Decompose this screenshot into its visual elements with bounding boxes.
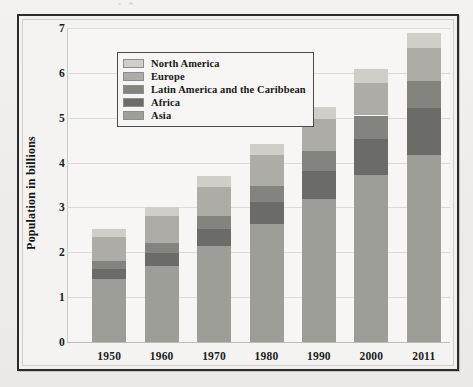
bar-segment-1990-asia[interactable] [302, 199, 336, 342]
y-axis-line [67, 28, 68, 342]
bar-segment-2000-europe[interactable] [354, 83, 388, 116]
bar-segment-1950-north-america[interactable] [92, 229, 126, 237]
y-axis-tick-labels: 01234567 [41, 28, 65, 342]
page-surface: Population in billions 01234567 19501960… [0, 0, 473, 387]
plot-area: 1950196019701980199020002011 North Ameri… [67, 28, 450, 342]
x-tick-label-1950: 1950 [92, 350, 126, 362]
bar-segment-2000-asia[interactable] [354, 175, 388, 342]
gridline-0 [67, 342, 450, 343]
bar-segment-1980-europe[interactable] [250, 155, 284, 186]
chart-figure-frame: Population in billions 01234567 19501960… [17, 14, 459, 371]
bar-segment-1960-africa[interactable] [145, 253, 179, 266]
y-tick-label-3: 3 [47, 201, 65, 213]
y-tick-label-0: 0 [47, 336, 65, 348]
legend-swatch-icon [123, 111, 144, 120]
bar-segment-2011-asia[interactable] [407, 155, 441, 343]
x-tick-label-1990: 1990 [302, 350, 336, 362]
bar-segment-1970-north-america[interactable] [197, 176, 231, 186]
bar-segment-1960-europe[interactable] [145, 216, 179, 243]
bar-segment-1970-europe[interactable] [197, 187, 231, 217]
bar-segment-2000-north-america[interactable] [354, 69, 388, 83]
x-tick-label-2000: 2000 [354, 350, 388, 362]
bar-segment-1970-asia[interactable] [197, 246, 231, 342]
legend-swatch-icon [123, 72, 144, 81]
legend-item-asia[interactable]: Asia [123, 109, 306, 122]
y-tick-label-5: 5 [47, 112, 65, 124]
bar-segment-1980-latin-america-and-the-caribbean[interactable] [250, 186, 284, 202]
y-axis-title: Population in billions [24, 136, 39, 250]
bar-segment-1960-north-america[interactable] [145, 207, 179, 216]
bar-segment-1990-africa[interactable] [302, 171, 336, 199]
y-tick-label-1: 1 [47, 291, 65, 303]
x-tick-label-1980: 1980 [250, 350, 284, 362]
scan-artifact [118, 3, 121, 5]
legend-label: North America [151, 58, 220, 69]
bar-segment-2000-latin-america-and-the-caribbean[interactable] [354, 116, 388, 139]
x-tick-label-1970: 1970 [197, 350, 231, 362]
bar-segment-1970-latin-america-and-the-caribbean[interactable] [197, 216, 231, 229]
bar-segment-1950-asia[interactable] [92, 279, 126, 342]
legend-swatch-icon [123, 85, 144, 94]
bar-segment-2000-africa[interactable] [354, 139, 388, 175]
legend-label: Africa [151, 97, 180, 108]
bar-segment-2011-europe[interactable] [407, 48, 441, 81]
legend-swatch-icon [123, 98, 144, 107]
bar-segment-1960-asia[interactable] [145, 266, 179, 342]
bar-segment-2011-latin-america-and-the-caribbean[interactable] [407, 81, 441, 108]
legend-item-africa[interactable]: Africa [123, 96, 306, 109]
x-tick-label-1960: 1960 [145, 350, 179, 362]
bar-segment-1950-europe[interactable] [92, 237, 126, 262]
bar-segment-1980-asia[interactable] [250, 224, 284, 342]
y-tick-label-6: 6 [47, 67, 65, 79]
legend-item-latin-america-and-the-caribbean[interactable]: Latin America and the Caribbean [123, 83, 306, 96]
legend-label: Latin America and the Caribbean [151, 84, 306, 95]
bar-segment-1980-africa[interactable] [250, 202, 284, 224]
legend-item-europe[interactable]: Europe [123, 70, 306, 83]
x-tick-label-2011: 2011 [407, 350, 441, 362]
legend-label: Asia [151, 110, 171, 121]
bar-segment-1990-latin-america-and-the-caribbean[interactable] [302, 151, 336, 171]
bar-segment-2011-north-america[interactable] [407, 33, 441, 49]
bar-segment-1970-africa[interactable] [197, 229, 231, 246]
chart-figure-inner: Population in billions 01234567 19501960… [22, 19, 454, 366]
bar-group-2011[interactable] [407, 28, 441, 342]
legend-swatch-icon [123, 59, 144, 68]
y-tick-label-4: 4 [47, 157, 65, 169]
chart-legend: North AmericaEuropeLatin America and the… [117, 52, 314, 127]
bar-segment-1950-latin-america-and-the-caribbean[interactable] [92, 261, 126, 269]
y-tick-label-7: 7 [47, 22, 65, 34]
legend-label: Europe [151, 71, 185, 82]
bar-segment-1960-latin-america-and-the-caribbean[interactable] [145, 243, 179, 253]
bar-group-2000[interactable] [354, 28, 388, 342]
bar-segment-1950-africa[interactable] [92, 269, 126, 279]
scan-artifact [129, 2, 133, 5]
bar-segment-1980-north-america[interactable] [250, 144, 284, 155]
y-tick-label-2: 2 [47, 246, 65, 258]
bar-segment-2011-africa[interactable] [407, 108, 441, 154]
legend-item-north-america[interactable]: North America [123, 57, 306, 70]
